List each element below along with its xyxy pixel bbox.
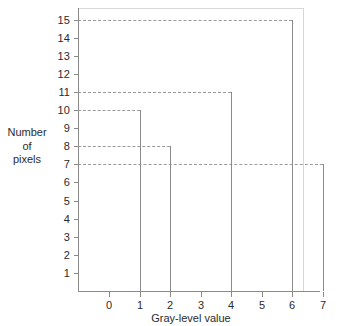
reference-line	[78, 164, 323, 165]
plot-area	[78, 8, 304, 291]
y-axis-tick	[74, 56, 79, 57]
y-axis-tick	[74, 237, 79, 238]
y-axis-tick	[74, 273, 79, 274]
histogram-bar	[292, 20, 293, 291]
x-axis-tick	[170, 292, 171, 297]
x-axis-tick-label: 0	[97, 299, 121, 311]
x-axis-tick-label: 3	[189, 299, 213, 311]
x-axis-tick-label: 2	[158, 299, 182, 311]
y-axis-tick-label: 13	[24, 51, 70, 62]
plot-frame-top	[78, 8, 304, 9]
y-axis-tick-label: 2	[24, 250, 70, 261]
y-axis-tick-label: 11	[24, 87, 70, 98]
y-axis-title-line-2: of	[0, 140, 54, 154]
y-axis-tick	[74, 219, 79, 220]
y-axis-tick	[74, 182, 79, 183]
x-axis-tick	[292, 292, 293, 297]
y-axis-tick	[74, 255, 79, 256]
x-axis-tick	[323, 292, 324, 297]
reference-line	[78, 92, 231, 93]
y-axis-tick-label: 12	[24, 69, 70, 80]
plot-frame-right	[303, 8, 304, 291]
y-axis-tick	[74, 74, 79, 75]
x-axis-tick	[231, 292, 232, 297]
histogram-bar	[170, 146, 171, 291]
histogram-chart: 15141312111098765432101234567 Number of …	[0, 0, 353, 326]
histogram-bar	[323, 164, 324, 291]
y-axis-tick-label: 5	[24, 196, 70, 207]
x-axis-tick	[140, 292, 141, 297]
x-axis-tick	[201, 292, 202, 297]
y-axis-title-line-1: Number	[0, 126, 54, 140]
x-axis-tick-label: 6	[280, 299, 304, 311]
x-axis-title: Gray-level value	[78, 312, 304, 324]
histogram-bar	[231, 92, 232, 291]
histogram-bar	[140, 110, 141, 291]
y-axis-tick-label: 4	[24, 214, 70, 225]
reference-line	[78, 110, 140, 111]
x-axis-tick-label: 5	[250, 299, 274, 311]
x-axis-tick-label: 7	[311, 299, 335, 311]
reference-line	[78, 146, 170, 147]
x-axis-line	[78, 291, 320, 292]
x-axis-tick	[109, 292, 110, 297]
reference-line	[78, 20, 292, 21]
y-axis-tick-label: 1	[24, 268, 70, 279]
x-axis-tick-label: 4	[219, 299, 243, 311]
y-axis-tick-label: 15	[24, 15, 70, 26]
y-axis-title: Number of pixels	[0, 126, 54, 167]
y-axis-tick	[74, 128, 79, 129]
y-axis-title-line-3: pixels	[0, 153, 54, 167]
y-axis-tick-label: 3	[24, 232, 70, 243]
x-axis-tick	[262, 292, 263, 297]
y-axis-line	[78, 8, 79, 292]
y-axis-tick	[74, 201, 79, 202]
y-axis-tick-label: 10	[24, 105, 70, 116]
x-axis-tick-label: 1	[128, 299, 152, 311]
y-axis-tick-label: 6	[24, 177, 70, 188]
y-axis-tick-label: 14	[24, 33, 70, 44]
y-axis-tick	[74, 38, 79, 39]
